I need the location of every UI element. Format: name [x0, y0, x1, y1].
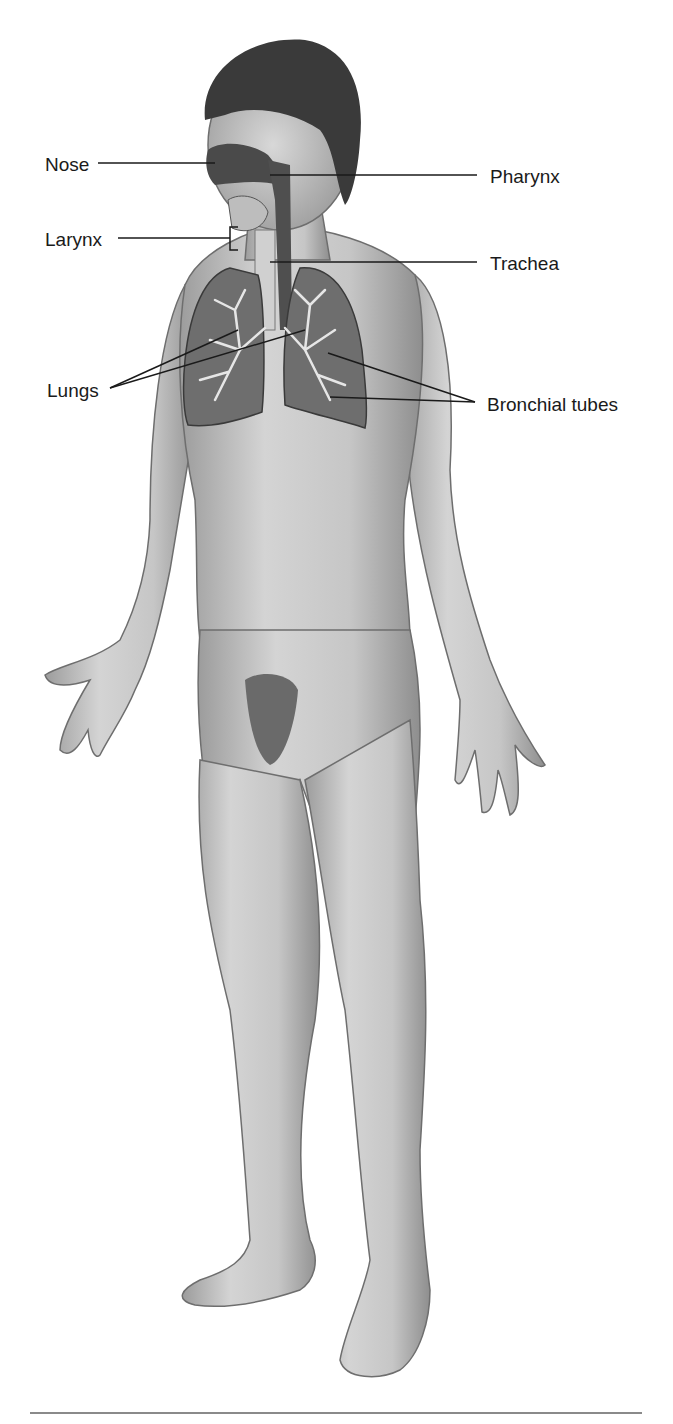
label-trachea: Trachea	[490, 254, 559, 273]
respiratory-system-illustration	[0, 0, 673, 1424]
label-nose: Nose	[45, 155, 89, 174]
label-lungs: Lungs	[47, 381, 99, 400]
caption-divider	[30, 1412, 642, 1414]
label-larynx: Larynx	[45, 230, 102, 249]
label-bronchial-tubes: Bronchial tubes	[487, 395, 618, 414]
label-pharynx: Pharynx	[490, 167, 560, 186]
